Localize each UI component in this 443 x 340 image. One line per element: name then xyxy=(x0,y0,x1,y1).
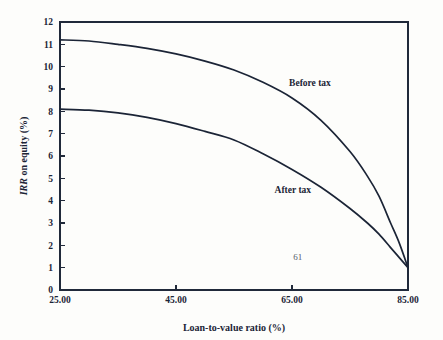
y-tick-label-8: 8 xyxy=(48,107,53,117)
y-axis-tick-labels: 0123456789101112 xyxy=(44,17,54,295)
y-tick-label-2: 2 xyxy=(48,241,53,251)
page-annotations: 61 xyxy=(293,252,302,262)
y-axis-title: IRR on equity (%) xyxy=(18,117,30,197)
y-tick-label-4: 4 xyxy=(48,196,53,206)
x-tick-label-65.00: 65.00 xyxy=(281,295,303,305)
y-tick-label-7: 7 xyxy=(48,129,53,139)
plot-frame xyxy=(60,22,408,290)
page-number: 61 xyxy=(293,252,302,262)
y-tick-label-6: 6 xyxy=(48,151,53,161)
x-tick-label-25.00: 25.00 xyxy=(49,295,71,305)
series-annotations: Before taxAfter tax xyxy=(275,78,332,195)
chart-figure: 0123456789101112 25.0045.0065.0085.00 Be… xyxy=(0,0,443,340)
curve-after-tax xyxy=(60,109,408,268)
x-tick-label-85.00: 85.00 xyxy=(397,295,419,305)
y-tick-label-5: 5 xyxy=(48,174,53,184)
y-tick-label-3: 3 xyxy=(48,218,53,228)
x-axis-title: Loan-to-value ratio (%) xyxy=(183,322,285,334)
y-tick-label-9: 9 xyxy=(48,84,53,94)
y-tick-label-11: 11 xyxy=(44,40,53,50)
y-tick-label-1: 1 xyxy=(48,263,53,273)
curve-before-tax xyxy=(60,40,408,268)
x-tick-label-45.00: 45.00 xyxy=(165,295,187,305)
data-curves xyxy=(60,40,408,268)
y-tick-label-12: 12 xyxy=(44,17,54,27)
x-axis-ticks xyxy=(60,285,408,290)
y-axis-ticks xyxy=(60,22,65,290)
series-label-after-tax: After tax xyxy=(275,185,312,195)
x-axis-tick-labels: 25.0045.0065.0085.00 xyxy=(49,295,419,305)
y-tick-label-10: 10 xyxy=(44,62,54,72)
series-label-before-tax: Before tax xyxy=(289,78,331,88)
y-tick-label-0: 0 xyxy=(48,285,53,295)
line-chart: 0123456789101112 25.0045.0065.0085.00 Be… xyxy=(0,0,443,340)
